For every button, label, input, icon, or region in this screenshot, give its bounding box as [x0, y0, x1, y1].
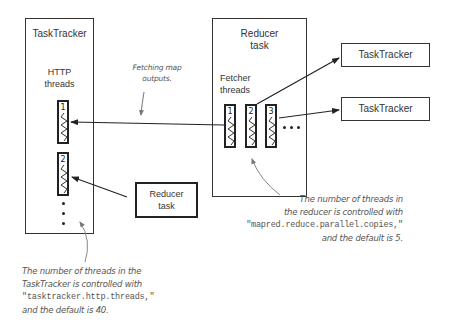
fetching-annotation-line2: outputs.	[127, 73, 187, 84]
reducer-note-line1: The number of threads in	[205, 193, 403, 206]
tasktracker-note-line2: TaskTracker is controlled with	[22, 278, 202, 291]
tasktracker-note-line1: The number of threads in the	[22, 265, 202, 278]
fetching-annotation-line1: Fetching map	[127, 62, 187, 73]
tasktracker-threads-note: The number of threads in the TaskTracker…	[22, 265, 202, 317]
tasktracker-note-code: "tasktracker.http.threads,"	[22, 291, 202, 304]
reducer-note-code: "mapred.reduce.parallel.copies,"	[205, 219, 403, 232]
fetching-annotation: Fetching map outputs.	[127, 62, 187, 84]
reducer-note-line4: and the default is 5.	[205, 232, 403, 245]
reducer-threads-note: The number of threads in the reducer is …	[205, 193, 403, 245]
reducer-note-line2: the reducer is controlled with	[205, 206, 403, 219]
tasktracker-note-line4: and the default is 40.	[22, 304, 202, 317]
